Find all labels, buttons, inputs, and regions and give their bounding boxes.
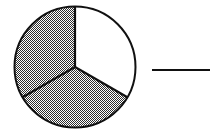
- pie-diagram-svg: [0, 0, 217, 135]
- figure-root: Pie chart with two of three equal sector…: [0, 0, 217, 135]
